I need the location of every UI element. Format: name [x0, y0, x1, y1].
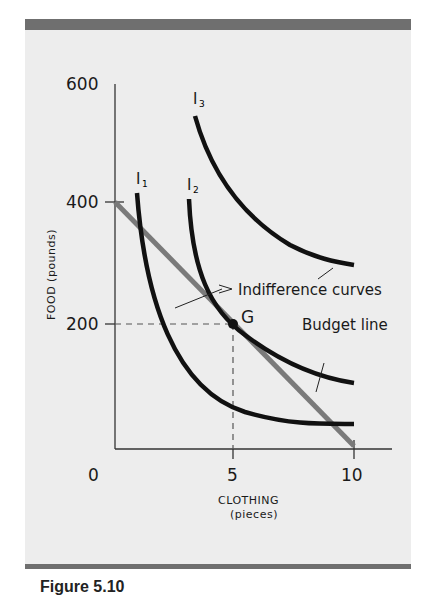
figure-caption: Figure 5.10	[40, 578, 124, 596]
y-tick-label-400: 400	[66, 192, 98, 212]
label-i1: I	[136, 170, 140, 188]
label-i2-sub: 2	[193, 185, 199, 195]
indiff-pointer-upper	[318, 268, 333, 279]
x-axis-label: CLOTHING	[218, 494, 279, 507]
label-i3: I	[193, 90, 197, 108]
x-tick-label-10: 10	[341, 465, 363, 485]
y-axis-label: FOOD (pounds)	[45, 229, 58, 320]
label-i2: I	[187, 176, 191, 194]
point-g	[228, 319, 238, 329]
y-tick-label-600: 600	[66, 74, 98, 94]
label-i3-sub: 3	[199, 99, 205, 109]
label-i1-sub: 1	[142, 179, 148, 189]
label-budget-line: Budget line	[302, 316, 388, 334]
indifference-curve-i3	[195, 116, 354, 265]
label-g: G	[241, 307, 254, 327]
x-tick-label-5: 5	[227, 465, 238, 485]
y-tick-label-200: 200	[66, 314, 98, 334]
x-tick-label-0: 0	[88, 465, 99, 485]
x-axis-unit: (pieces)	[230, 508, 278, 521]
label-indifference-curves: Indifference curves	[238, 281, 382, 299]
